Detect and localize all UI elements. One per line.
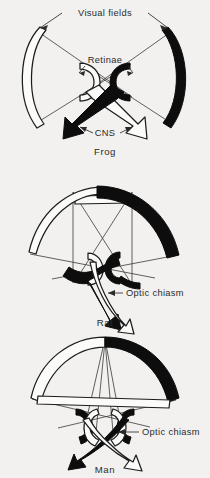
panel-rat: Optic chiasm Rat — [29, 186, 184, 334]
visual-pathway-figure: Visual fields Retinae CNS Frog — [0, 0, 210, 478]
caption-rat: Rat — [97, 317, 114, 328]
visual-fields-leader-right — [148, 13, 168, 28]
label-visual-fields: Visual fields — [78, 8, 132, 18]
figure-canvas: Visual fields Retinae CNS Frog — [0, 0, 210, 478]
rat-visual-field-right — [97, 186, 179, 258]
frog-visual-field-left — [22, 27, 46, 128]
label-optic-chiasm-rat: Optic chiasm — [126, 288, 184, 298]
man-binocular-band — [37, 396, 170, 408]
label-retinae: Retinae — [88, 55, 123, 65]
panel-man: Optic chiasm Man — [31, 337, 200, 475]
caption-man: Man — [95, 464, 115, 475]
label-cns: CNS — [95, 128, 116, 138]
optic-chiasm-rat-arrowhead — [108, 290, 115, 296]
panel-frog: Visual fields Retinae CNS Frog — [22, 8, 185, 157]
label-optic-chiasm-man: Optic chiasm — [142, 427, 200, 437]
man-rays — [32, 339, 176, 432]
visual-fields-leader-left — [40, 13, 62, 28]
frog-visual-field-right — [162, 27, 186, 128]
man-visual-field-left — [31, 337, 105, 402]
man-visual-field-right — [105, 337, 179, 402]
frog-rays — [37, 31, 172, 123]
caption-frog: Frog — [94, 146, 116, 157]
